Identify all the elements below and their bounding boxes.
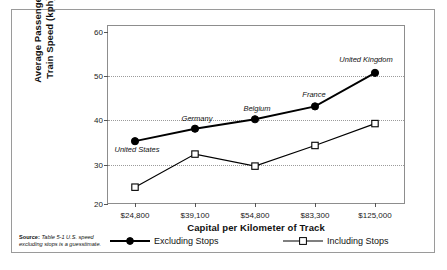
y-tick-label-30: 30 <box>94 160 103 169</box>
data-point-including-0 <box>132 184 138 190</box>
data-point-excluding-0 <box>131 138 138 145</box>
data-point-including-1 <box>192 151 198 157</box>
legend-entry-including-stops[interactable]: Including Stops <box>283 236 389 246</box>
source-note-label: Source: <box>19 234 40 240</box>
legend-label-excluding-stops: Excluding Stops <box>154 236 219 246</box>
legend-swatch-including-stops <box>283 236 323 246</box>
source-note: Source: Table 5-1 U.S. speed excluding s… <box>19 234 107 248</box>
plot-area: 60 50 40 30 20 $24,800 $39,100 $54,800 $… <box>107 25 405 204</box>
y-tick-label-60: 60 <box>94 27 103 36</box>
x-tick-mark-1 <box>195 203 196 207</box>
point-label-united-kingdom: United Kingdom <box>339 55 392 64</box>
x-tick-mark-4 <box>375 203 376 207</box>
y-axis-title-line1: Average Passenger <box>32 0 44 113</box>
series-plot <box>108 26 404 203</box>
y-axis-title-line2: Train Speed (kph) <box>44 0 56 113</box>
legend-entry-excluding-stops[interactable]: Excluding Stops <box>110 236 219 246</box>
chart-legend: Excluding Stops Including Stops <box>110 236 410 250</box>
x-tick-label-1: $39,100 <box>181 211 210 220</box>
x-tick-label-2: $54,800 <box>241 211 270 220</box>
legend-label-including-stops: Including Stops <box>327 236 389 246</box>
x-axis-title: Capital per Kilometer of Track <box>107 222 405 233</box>
x-tick-label-3: $83,300 <box>301 211 330 220</box>
data-point-including-2 <box>252 163 258 169</box>
data-point-excluding-3 <box>311 103 318 110</box>
x-tick-label-4: $125,000 <box>358 211 391 220</box>
x-tick-mark-2 <box>255 203 256 207</box>
point-label-belgium: Belgium <box>243 104 270 113</box>
y-tick-label-50: 50 <box>94 72 103 81</box>
point-label-germany: Germany <box>182 114 213 123</box>
point-label-france: France <box>302 90 325 99</box>
y-tick-label-40: 40 <box>94 116 103 125</box>
x-tick-mark-0 <box>135 203 136 207</box>
x-tick-label-0: $24,800 <box>121 211 150 220</box>
legend-swatch-excluding-stops <box>110 236 150 246</box>
data-point-excluding-2 <box>251 116 258 123</box>
figure-container: Average Passenger Train Speed (kph) 60 5… <box>0 0 447 270</box>
markers-including-stops <box>132 120 378 190</box>
y-tick-mark-20 <box>104 204 108 205</box>
x-tick-mark-3 <box>315 203 316 207</box>
data-point-including-4 <box>372 120 378 126</box>
y-axis-title: Average Passenger Train Speed (kph) <box>32 0 56 113</box>
point-label-united-states: United States <box>114 145 159 154</box>
data-point-including-3 <box>312 142 318 148</box>
data-point-excluding-4 <box>371 69 378 76</box>
y-tick-label-20: 20 <box>94 199 103 208</box>
data-point-excluding-1 <box>191 125 198 132</box>
